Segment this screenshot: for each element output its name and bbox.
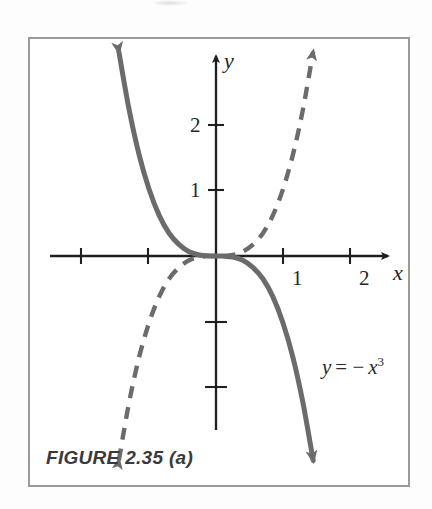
y-tick-label-2: 2 xyxy=(190,115,201,136)
x-axis-label: x xyxy=(393,262,403,284)
equation-y-term: y xyxy=(322,355,331,379)
x-tick-label-1: 1 xyxy=(292,268,303,289)
figure-caption: FIGURE 2.35 (a) xyxy=(46,447,193,469)
equation-operator: = − xyxy=(335,355,364,379)
figure-container: 1 2 1 2 x y y= −x3 FIGURE 2.35 (a) xyxy=(0,0,432,509)
equation-exponent: 3 xyxy=(378,354,385,369)
equation-x-term: x xyxy=(368,355,377,379)
equation-label: y= −x3 xyxy=(322,357,384,378)
plot-canvas xyxy=(0,0,432,509)
y-axis-label: y xyxy=(224,50,234,72)
y-tick-label-1: 1 xyxy=(190,180,201,201)
x-tick-label-2: 2 xyxy=(359,268,370,289)
y-axis xyxy=(205,56,227,430)
